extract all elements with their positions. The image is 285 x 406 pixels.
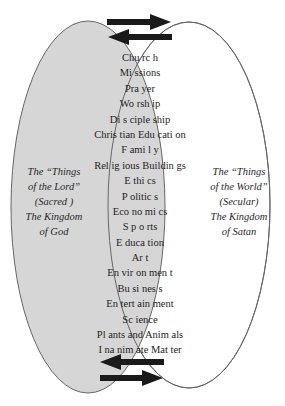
overlap-item: Eco no mi cs [70, 204, 210, 219]
overlap-item: Pl ants and Anim als [70, 327, 210, 342]
secular-label-line: The Kingdom [199, 209, 279, 224]
overlap-item: E thi cs [70, 173, 210, 188]
overlap-item: Rel ig ious Buildin gs [70, 158, 210, 173]
top-right-arrow-icon [107, 14, 171, 30]
overlap-item: S p o rts [70, 219, 210, 234]
overlap-item: Di s ciple ship [70, 112, 210, 127]
overlap-item: Ar t [70, 250, 210, 265]
overlap-items-list: Chu rc h Mi ssions Pra yer Wo rsh ip Di … [70, 50, 210, 358]
overlap-item: Wo rsh ip [70, 96, 210, 111]
secular-label-line: of Satan [199, 224, 279, 239]
overlap-item: En tert ain ment [70, 296, 210, 311]
overlap-item: E duca tion [70, 235, 210, 250]
secular-label-line: of the World” [199, 179, 279, 194]
overlap-item: En vir on men t [70, 265, 210, 280]
overlap-item: Chu rc h [70, 50, 210, 65]
overlap-item: P olitic s [70, 189, 210, 204]
overlap-item: F ami l y [70, 142, 210, 157]
secular-label-line: (Secular) [199, 194, 279, 209]
overlap-item: Pra yer [70, 81, 210, 96]
overlap-item: Mi ssions [70, 65, 210, 80]
secular-label: The “Things of the World” (Secular) The … [199, 164, 279, 239]
overlap-item: Sc ience [70, 312, 210, 327]
secular-label-line: The “Things [199, 164, 279, 179]
overlap-item: Chris tian Edu cati on [70, 127, 210, 142]
overlap-item: I na nim ate Mat ter [70, 342, 210, 357]
overlap-item: Bu si nes s [70, 281, 210, 296]
